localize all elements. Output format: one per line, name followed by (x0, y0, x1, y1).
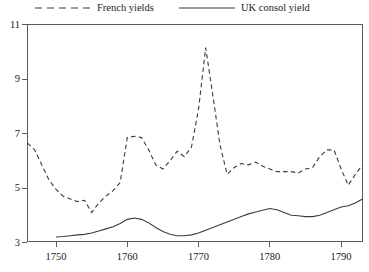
yields-line-chart: French yields UK consol yield 357911 175… (0, 0, 369, 272)
y-tick-mark (22, 242, 27, 243)
x-tick-label: 1790 (321, 251, 361, 262)
x-tick-mark (341, 242, 342, 247)
y-tick-label: 3 (2, 237, 20, 248)
y-tick-label: 5 (2, 182, 20, 193)
y-tick-label: 11 (2, 19, 20, 30)
x-tick-mark (127, 242, 128, 247)
y-tick-mark (22, 188, 27, 189)
series-line-uk-consol-yield (56, 199, 362, 237)
y-tick-mark (22, 79, 27, 80)
x-tick-mark (56, 242, 57, 247)
x-tick-mark (198, 242, 199, 247)
y-tick-label: 9 (2, 73, 20, 84)
x-tick-mark (269, 242, 270, 247)
x-tick-label: 1780 (250, 251, 290, 262)
series-line-french-yields (28, 48, 363, 213)
y-tick-mark (22, 133, 27, 134)
x-tick-label: 1760 (107, 251, 147, 262)
series-canvas (0, 0, 369, 272)
x-tick-label: 1750 (36, 251, 76, 262)
x-tick-label: 1770 (179, 251, 219, 262)
y-tick-label: 7 (2, 128, 20, 139)
y-tick-mark (22, 24, 27, 25)
